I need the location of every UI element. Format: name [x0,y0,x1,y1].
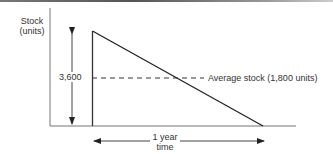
average-stock-label: Average stock (1,800 units) [208,73,317,83]
y-axis-label-line2: (units) [15,26,49,36]
period-label-line2: time [150,142,180,152]
period-label: 1 year time [150,132,180,152]
y-axis-label-line1: Stock [15,16,49,26]
max-stock-label: 3,600 [58,72,83,82]
period-label-line1: 1 year [150,132,180,142]
y-axis-label: Stock (units) [15,16,49,36]
